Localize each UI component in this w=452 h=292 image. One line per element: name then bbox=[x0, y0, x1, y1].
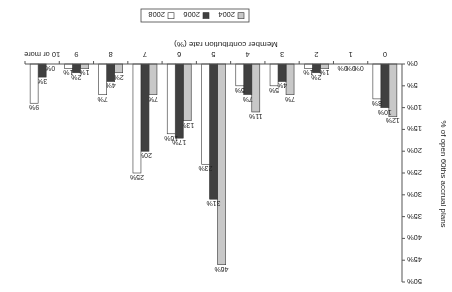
bar-value-label: 23% bbox=[198, 165, 212, 172]
bar-2004-3 bbox=[286, 64, 294, 95]
bar-value-label: 31% bbox=[206, 200, 220, 207]
bar-2006-3 bbox=[278, 64, 286, 81]
y-tick-label: 15% bbox=[407, 124, 422, 133]
legend-swatch-2008 bbox=[168, 13, 174, 19]
x-tick-label: 0 bbox=[383, 50, 387, 59]
y-tick-label: 30% bbox=[407, 190, 422, 199]
bar-2006-4 bbox=[244, 64, 252, 95]
x-tick-label: 1 bbox=[349, 50, 353, 59]
x-tick-label: 5 bbox=[211, 50, 215, 59]
bar-2006-8 bbox=[107, 64, 115, 81]
y-tick-label: 40% bbox=[407, 233, 422, 242]
bars-group: 12%10%8%0%0%0%1%2%1%7%4%5%11%7%5%46%31%2… bbox=[29, 64, 400, 273]
x-tick-label: 9 bbox=[74, 50, 78, 59]
bar-2008-4 bbox=[236, 64, 244, 86]
bar-2008-9 bbox=[64, 64, 72, 68]
bar-2004-2 bbox=[320, 64, 328, 68]
bar-value-label: 1% bbox=[63, 69, 73, 76]
bar-value-label: 3% bbox=[37, 78, 47, 85]
y-tick-label: 25% bbox=[407, 168, 422, 177]
bar-2006-0 bbox=[381, 64, 389, 108]
bar-2008-10-or-more bbox=[30, 64, 38, 103]
bar-value-label: 8% bbox=[372, 100, 382, 107]
bar-value-label: 0% bbox=[45, 65, 55, 72]
bar-value-label: 1% bbox=[303, 69, 313, 76]
y-tick-label: 0% bbox=[407, 59, 418, 68]
bar-2004-8 bbox=[115, 64, 123, 73]
x-tick-label: 10 or more bbox=[24, 50, 60, 59]
y-tick-label: 10% bbox=[407, 103, 422, 112]
bar-2008-3 bbox=[270, 64, 278, 86]
bar-2006-10-or-more bbox=[38, 64, 46, 77]
x-tick-label: 8 bbox=[109, 50, 113, 59]
bar-2006-2 bbox=[312, 64, 320, 73]
y-tick-label: 45% bbox=[407, 255, 422, 264]
bar-value-label: 46% bbox=[214, 266, 228, 273]
bar-2004-9 bbox=[80, 64, 88, 68]
bar-2006-5 bbox=[210, 64, 218, 199]
x-tick-label: 6 bbox=[177, 50, 181, 59]
bar-value-label: 10% bbox=[378, 109, 392, 116]
bar-value-label: 12% bbox=[386, 117, 400, 124]
bar-2008-5 bbox=[202, 64, 210, 164]
y-tick-label: 35% bbox=[407, 212, 422, 221]
bar-value-label: 7% bbox=[148, 96, 158, 103]
bar-value-label: 9% bbox=[29, 104, 39, 111]
bar-2008-8 bbox=[99, 64, 107, 95]
x-tick-label: 7 bbox=[143, 50, 147, 59]
bar-value-label: 2% bbox=[114, 74, 124, 81]
bar-2006-9 bbox=[72, 64, 80, 73]
bar-value-label: 0% bbox=[338, 65, 348, 72]
bar-2008-6 bbox=[167, 64, 175, 134]
bar-2006-7 bbox=[141, 64, 149, 151]
bar-value-label: 11% bbox=[249, 113, 262, 120]
bar-value-label: 7% bbox=[243, 96, 253, 103]
bar-2006-6 bbox=[175, 64, 183, 138]
bar-value-label: 7% bbox=[98, 96, 108, 103]
x-tick-label: 3 bbox=[280, 50, 284, 59]
legend-label-2004: 2004 bbox=[218, 11, 235, 20]
y-tick-label: 5% bbox=[407, 81, 418, 90]
bar-value-label: 25% bbox=[130, 174, 144, 181]
y-tick-label: 20% bbox=[407, 146, 422, 155]
chart: 12%10%8%0%0%0%1%2%1%7%4%5%11%7%5%46%31%2… bbox=[0, 0, 452, 292]
legend: 200420062008 bbox=[141, 9, 249, 22]
bar-2008-7 bbox=[133, 64, 141, 173]
bar-value-label: 5% bbox=[235, 87, 245, 94]
legend-swatch-2006 bbox=[203, 13, 209, 19]
bar-2004-5 bbox=[218, 64, 226, 265]
bar-2004-7 bbox=[149, 64, 157, 95]
bar-chart: 12%10%8%0%0%0%1%2%1%7%4%5%11%7%5%46%31%2… bbox=[0, 0, 452, 292]
x-axis-label: Member contribution rate (%) bbox=[174, 40, 278, 49]
y-tick-label: 50% bbox=[407, 277, 422, 286]
x-tick-label: 2 bbox=[314, 50, 318, 59]
bar-value-label: 16% bbox=[164, 135, 178, 142]
bar-2008-0 bbox=[373, 64, 381, 99]
bar-2008-2 bbox=[304, 64, 312, 68]
legend-label-2006: 2006 bbox=[183, 11, 200, 20]
bar-value-label: 4% bbox=[106, 82, 116, 89]
bar-2004-4 bbox=[252, 64, 260, 112]
bar-2004-6 bbox=[183, 64, 191, 121]
legend-swatch-2004 bbox=[238, 13, 244, 19]
legend-label-2008: 2008 bbox=[148, 11, 165, 20]
bar-value-label: 5% bbox=[269, 87, 279, 94]
bar-value-label: 7% bbox=[285, 96, 295, 103]
y-axis-label: % of open 60ths accrual plans bbox=[439, 120, 448, 227]
x-tick-label: 4 bbox=[246, 50, 250, 59]
